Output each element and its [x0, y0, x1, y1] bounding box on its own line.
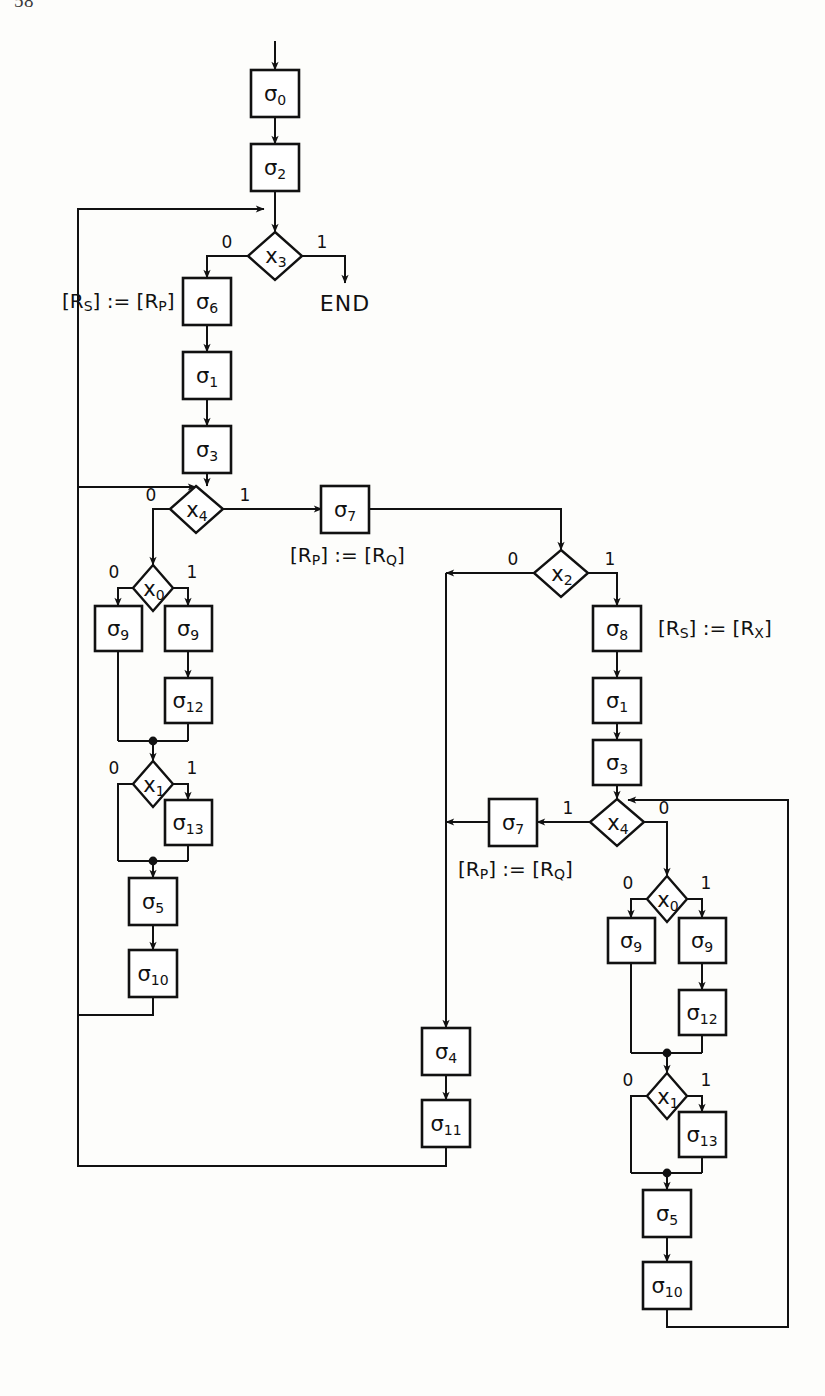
junction-dot	[663, 1049, 672, 1058]
node-sigma-7-upper[interactable]: σ7	[321, 486, 369, 533]
edge-x1b-mergeB1	[631, 1096, 647, 1173]
terminal-end: END	[320, 291, 370, 316]
annotation-rp-rq-lower: [RP] := [RQ]	[458, 857, 573, 883]
branch-label-x1right-one: 1	[701, 1070, 712, 1090]
branch-label-x4right-zero: 0	[659, 798, 670, 818]
node-sigma-2[interactable]: σ2	[251, 144, 299, 191]
node-sigma-3-left[interactable]: σ3	[183, 426, 231, 473]
edge-x0a-s9aL	[118, 588, 133, 606]
edge-x3-end	[302, 256, 345, 283]
junction-layer	[149, 737, 672, 1178]
branch-label-x3-zero: 0	[222, 232, 233, 252]
node-sigma-12-left[interactable]: σ12	[165, 678, 212, 723]
branch-label-x2-one: 1	[605, 549, 616, 569]
branch-label-x0left-zero: 0	[109, 562, 120, 582]
node-sigma-3-right[interactable]: σ3	[593, 740, 641, 785]
node-sigma-13-left[interactable]: σ13	[165, 800, 212, 845]
edge-s11-loopback-x3	[78, 209, 446, 1166]
node-sigma-5-left[interactable]: σ5	[129, 878, 177, 925]
branch-label-x4left-one: 1	[240, 485, 251, 505]
junction-dot	[149, 857, 158, 866]
node-sigma-7-lower[interactable]: σ7	[489, 799, 537, 846]
annotation-rs-rx: [RS] := [RX]	[658, 616, 772, 642]
edge-x1a-mergeA1	[118, 784, 133, 861]
junction-dot	[149, 737, 158, 746]
node-condition-x0-left[interactable]: x0	[133, 565, 173, 611]
node-sigma-12-right[interactable]: σ12	[679, 990, 726, 1035]
node-sigma-11[interactable]: σ11	[422, 1100, 470, 1147]
branch-label-x1right-zero: 0	[623, 1070, 634, 1090]
branch-label-x2-zero: 0	[508, 549, 519, 569]
node-sigma-10-right[interactable]: σ10	[643, 1262, 691, 1309]
annotation-rs-rp: [RS] := [RP]	[62, 289, 175, 315]
flowchart-svg: σ0 σ2 x3 END σ6 σ1	[0, 0, 825, 1396]
node-sigma-13-right[interactable]: σ13	[679, 1112, 726, 1157]
node-sigma-10-left[interactable]: σ10	[129, 950, 177, 997]
node-sigma-1-right[interactable]: σ1	[593, 678, 641, 723]
edge-x4a-x0a	[153, 509, 170, 565]
node-condition-x4-right[interactable]: x4	[590, 799, 644, 846]
node-condition-x0-right[interactable]: x0	[647, 876, 687, 922]
branch-label-x1left-one: 1	[187, 758, 198, 778]
node-condition-x2[interactable]: x2	[534, 550, 588, 597]
node-sigma-8[interactable]: σ8	[593, 606, 641, 651]
node-condition-x3[interactable]: x3	[248, 232, 302, 280]
branch-label-x3-one: 1	[317, 232, 328, 252]
edge-x0a-s9aR	[173, 588, 188, 606]
branch-label-x4left-zero: 0	[146, 485, 157, 505]
edge-x1b-s13b	[687, 1096, 702, 1112]
branch-label-x4right-one: 1	[563, 798, 574, 818]
node-sigma-9-right-zero[interactable]: σ9	[608, 918, 655, 963]
junction-dot	[663, 1169, 672, 1178]
edge-x0b-s9bR	[687, 899, 702, 918]
node-sigma-4[interactable]: σ4	[422, 1028, 470, 1075]
branch-label-x1left-zero: 0	[109, 758, 120, 778]
node-condition-x4-left[interactable]: x4	[170, 486, 223, 533]
diagram-page: 58	[0, 0, 825, 1396]
edge-x0b-s9bL	[631, 899, 647, 918]
edge-x1a-s13a	[173, 784, 188, 800]
node-sigma-9-right-one[interactable]: σ9	[679, 918, 726, 963]
edge-x2-s8	[588, 573, 617, 606]
branch-label-x0right-zero: 0	[623, 873, 634, 893]
node-sigma-6[interactable]: σ6	[183, 278, 231, 325]
branch-label-x0left-one: 1	[187, 562, 198, 582]
edge-s10a-loopback-x4a	[78, 487, 196, 1015]
node-sigma-9-left-zero[interactable]: σ9	[95, 606, 142, 651]
edge-x3-s6	[207, 256, 248, 278]
node-sigma-0[interactable]: σ0	[251, 70, 299, 117]
branch-label-x0right-one: 1	[701, 873, 712, 893]
node-sigma-1-left[interactable]: σ1	[183, 352, 231, 399]
annotation-rp-rq-upper: [RP] := [RQ]	[290, 543, 405, 569]
node-sigma-5-right[interactable]: σ5	[643, 1190, 691, 1237]
node-sigma-9-left-one[interactable]: σ9	[165, 606, 212, 651]
edge-x4b-x0b	[644, 822, 667, 876]
